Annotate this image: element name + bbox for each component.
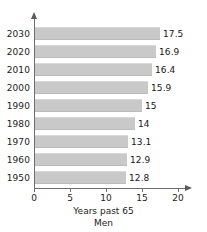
- category-label: 1980: [0, 115, 30, 133]
- bar-value-label: 12.9: [130, 151, 150, 169]
- x-axis-tick: [106, 188, 107, 192]
- category-label: 1950: [0, 169, 30, 187]
- x-axis-line: [34, 188, 186, 189]
- bar-value-label: 12.8: [129, 169, 149, 187]
- bar: [34, 45, 156, 58]
- x-axis-tick-label: 10: [93, 193, 119, 203]
- category-label: 1960: [0, 151, 30, 169]
- y-axis-line: [34, 18, 35, 188]
- category-label: 2010: [0, 61, 30, 79]
- bar-value-label: 15: [145, 97, 157, 115]
- x-axis-tick: [70, 188, 71, 192]
- plot-area: 2030 17.5 2020 16.9 2010 16.4 2000 15.9 …: [0, 0, 207, 200]
- bar: [34, 153, 127, 166]
- bar: [34, 81, 148, 94]
- bar: [34, 27, 160, 40]
- bar-value-label: 16.9: [159, 43, 179, 61]
- category-label: 2030: [0, 25, 30, 43]
- bar: [34, 171, 126, 184]
- bar: [34, 63, 152, 76]
- category-label: 1990: [0, 97, 30, 115]
- bar-value-label: 13.1: [131, 133, 151, 151]
- x-axis-tick: [142, 188, 143, 192]
- x-axis-title: Years past 65: [0, 206, 207, 216]
- x-axis-arrow-icon: [185, 185, 192, 191]
- chart-subtitle: Men: [0, 218, 207, 228]
- category-label: 2000: [0, 79, 30, 97]
- bar: [34, 135, 128, 148]
- x-axis-tick-label: 5: [57, 193, 83, 203]
- bar-value-label: 17.5: [163, 25, 183, 43]
- category-label: 2020: [0, 43, 30, 61]
- bar-value-label: 16.4: [155, 61, 175, 79]
- category-label: 1970: [0, 133, 30, 151]
- bar: [34, 117, 135, 130]
- x-axis-tick-label: 20: [165, 193, 191, 203]
- y-axis-arrow-icon: [31, 12, 37, 19]
- bar-chart: 2030 17.5 2020 16.9 2010 16.4 2000 15.9 …: [0, 0, 207, 232]
- bar-value-label: 15.9: [151, 79, 171, 97]
- x-axis-tick-label: 15: [129, 193, 155, 203]
- x-axis-tick-label: 0: [21, 193, 47, 203]
- bar-value-label: 14: [138, 115, 150, 133]
- x-axis-tick: [178, 188, 179, 192]
- x-axis-tick: [34, 188, 35, 192]
- bar: [34, 99, 142, 112]
